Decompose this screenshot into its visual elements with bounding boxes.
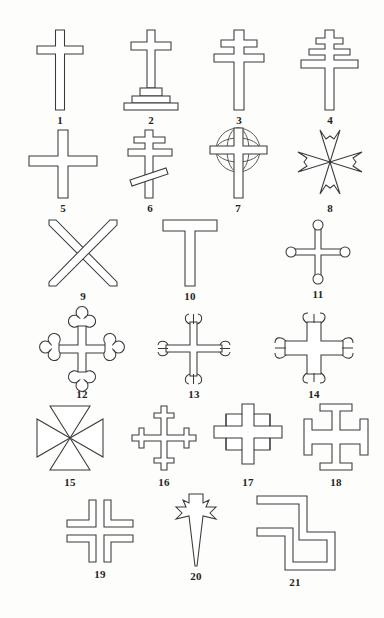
figure-11-cross-pommee: 11 [275, 218, 361, 300]
cross-dagger-pointed-drawing [174, 492, 218, 568]
figure-caption: 1 [57, 114, 63, 126]
cross-potent-drawing [300, 402, 372, 474]
figure-caption: 19 [94, 568, 105, 580]
latin-cross-drawing [30, 28, 90, 112]
papal-cross-drawing [297, 28, 363, 112]
figure-17-cross-stepped-square: 17 [206, 402, 290, 488]
greek-cross-drawing [27, 128, 99, 200]
cross-pommee-drawing [282, 218, 354, 286]
calvary-cross-drawing [115, 28, 187, 112]
figure-caption: 7 [235, 202, 241, 214]
tau-cross-drawing [161, 218, 219, 288]
figure-caption: 6 [147, 202, 153, 214]
figure-2-calvary-cross: 2 [108, 28, 194, 126]
figure-20-cross-dagger-pointed: 20 [165, 492, 227, 582]
cross-crosslet-drawing [128, 402, 200, 474]
figure-caption: 13 [188, 388, 199, 400]
figure-caption: 4 [327, 114, 333, 126]
figure-caption: 20 [190, 570, 201, 582]
cross-pattee-concave-drawing [33, 402, 107, 474]
figure-caption: 5 [60, 202, 66, 214]
figure-18-cross-potent: 18 [294, 402, 378, 488]
figure-21-gammadion-fylfot: 21 [240, 492, 350, 588]
figure-6-russian-orthodox-cross: 6 [112, 128, 188, 214]
figure-caption: 17 [242, 476, 253, 488]
cross-botonee-drawing [43, 312, 121, 386]
figure-16-cross-crosslet: 16 [122, 402, 206, 488]
cross-plate: 1 2 3 4 [0, 0, 384, 618]
figure-10-tau-cross: 10 [155, 218, 225, 302]
celtic-cross-drawing [205, 126, 271, 200]
figure-13-cross-fleury: 13 [148, 312, 240, 400]
figure-caption: 2 [148, 114, 154, 126]
figure-caption: 14 [308, 388, 319, 400]
figure-caption: 15 [64, 476, 75, 488]
patriarchal-cross-drawing [208, 28, 270, 112]
figure-caption: 21 [289, 576, 300, 588]
russian-orthodox-cross-drawing [120, 128, 180, 200]
figure-3-patriarchal-cross: 3 [198, 28, 280, 126]
figure-5-greek-cross: 5 [20, 128, 106, 214]
figure-8-maltese-cross: 8 [286, 126, 374, 214]
saltire-cross-drawing [45, 218, 121, 288]
figure-caption: 10 [184, 290, 195, 302]
maltese-cross-drawing [292, 126, 368, 200]
figure-caption: 9 [80, 290, 86, 302]
gammadion-fylfot-drawing [247, 492, 343, 574]
figure-9-saltire-cross: 9 [38, 218, 128, 302]
figure-4-papal-cross: 4 [288, 28, 372, 126]
figure-12-cross-botonee: 12 [36, 312, 128, 400]
figure-caption: 18 [330, 476, 341, 488]
figure-caption: 3 [236, 114, 242, 126]
figure-7-celtic-cross: 7 [196, 126, 280, 214]
cross-flory-broad-drawing [271, 310, 357, 386]
figure-caption: 16 [158, 476, 169, 488]
cross-cantonned-split-drawing [63, 496, 137, 566]
figure-14-cross-flory-broad: 14 [264, 310, 364, 400]
figure-19-cross-cantonned-split: 19 [56, 496, 144, 580]
figure-caption: 8 [327, 202, 333, 214]
figure-1-latin-cross: 1 [20, 28, 100, 126]
figure-caption: 11 [313, 288, 324, 300]
cross-fleury-drawing [154, 312, 234, 386]
cross-stepped-square-drawing [212, 402, 284, 474]
figure-15-cross-pattee-concave: 15 [26, 402, 114, 488]
figure-caption: 12 [76, 388, 87, 400]
